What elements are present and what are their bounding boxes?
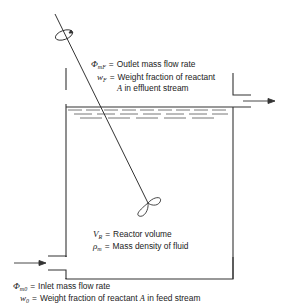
outlet-flow-label: ΦmF=Outlet mass flow rate bbox=[91, 60, 195, 70]
tank-bottom bbox=[66, 257, 233, 279]
outlet-arrow-icon bbox=[243, 99, 275, 104]
reactor-volume-label: VR=Reactor volume bbox=[93, 230, 172, 240]
outlet-flow-symbol: Φ bbox=[91, 59, 98, 69]
inlet-weight-label: w0=Weight fraction of reactant A in feed… bbox=[20, 294, 200, 304]
rotation-arrow-icon bbox=[54, 28, 74, 43]
outlet-flow-text: Outlet mass flow rate bbox=[117, 59, 196, 69]
mass-density-label: ρm=Mass density of fluid bbox=[93, 242, 188, 252]
inlet-arrow-icon bbox=[14, 261, 46, 266]
cstr-diagram: ΦmF=Outlet mass flow rate wF=Weight frac… bbox=[0, 0, 292, 305]
outlet-weight-label-line2: A in effluent stream bbox=[117, 84, 189, 93]
inlet-flow-label: Φm0=Inlet mass flow rate bbox=[13, 282, 110, 292]
liquid-level-lines bbox=[68, 110, 230, 118]
impeller-icon bbox=[138, 198, 161, 217]
outlet-weight-text: Weight fraction of reactant bbox=[118, 72, 216, 82]
inlet-nozzle bbox=[48, 256, 66, 279]
outlet-weight-label: wF=Weight fraction of reactant bbox=[97, 73, 215, 83]
agitator-shaft bbox=[55, 14, 148, 203]
outlet-nozzle bbox=[233, 73, 251, 95]
reactor-drawing bbox=[0, 0, 292, 305]
